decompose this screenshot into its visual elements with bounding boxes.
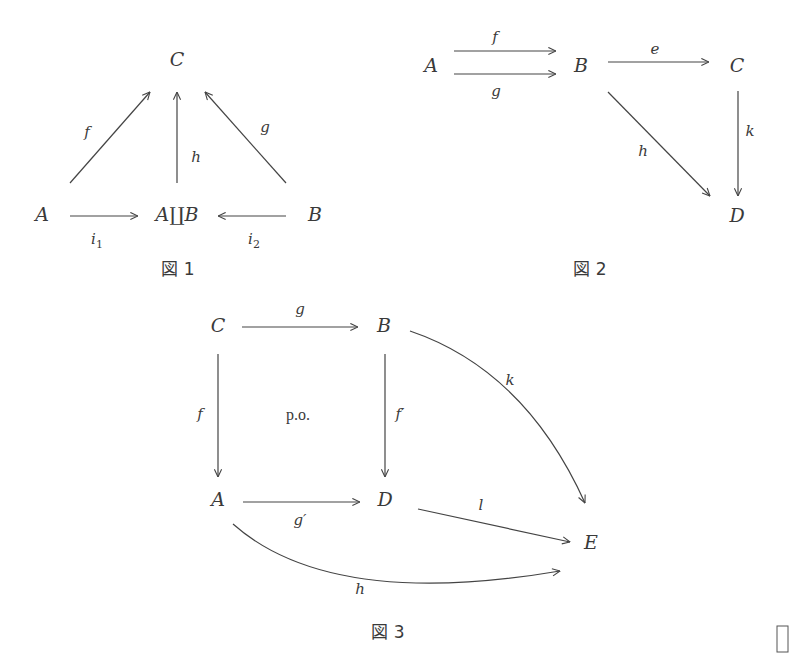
arrow-label-f: f <box>491 28 500 46</box>
arrow-label-l: l <box>479 496 484 514</box>
arrow-label-h: h <box>638 142 648 160</box>
arrow-label-g: g <box>260 118 270 136</box>
figure-caption: 図 2 <box>573 259 606 279</box>
node-AuB: A∐B <box>154 203 199 225</box>
arrow-k <box>410 331 585 503</box>
end-marker-box <box>777 626 788 652</box>
node-A: A <box>209 488 225 510</box>
arrow-label-k: k <box>505 371 514 389</box>
figure-caption: 図 1 <box>161 259 194 279</box>
arrow-label-i1: i1 <box>91 230 103 251</box>
arrow-h <box>233 524 560 583</box>
node-D: D <box>728 204 744 226</box>
arrow-l <box>418 509 570 542</box>
arrow-label-f: f <box>83 123 92 141</box>
node-B: B <box>307 203 322 225</box>
figure-fig3: gff′g′klhCBADEp.o.図 3 <box>196 300 598 642</box>
arrow-label-g: g <box>295 300 305 318</box>
figure-fig2: fgehkABCD図 2 <box>422 28 754 279</box>
diagram-canvas: fhgi1i2CAA∐BB図 1fgehkABCD図 2gff′g′klhCBA… <box>0 0 789 667</box>
node-C: C <box>170 48 185 70</box>
node-B: B <box>376 314 391 336</box>
arrow-label-k: k <box>745 122 754 140</box>
arrow-f <box>70 92 150 183</box>
arrow-h <box>608 92 710 196</box>
arrow-g <box>205 92 286 183</box>
figure-fig1: fhgi1i2CAA∐BB図 1 <box>33 48 322 279</box>
arrow-label-i2: i2 <box>248 230 260 251</box>
node-D: D <box>376 488 392 510</box>
node-A: A <box>33 203 49 225</box>
node-E: E <box>583 531 598 553</box>
pushout-label: p.o. <box>286 406 310 424</box>
arrow-label-f: f <box>196 405 205 423</box>
arrow-label-e: e <box>651 40 660 58</box>
node-C: C <box>211 314 226 336</box>
arrow-label-h: h <box>191 148 201 166</box>
arrow-label-f-prime: f′ <box>395 405 406 423</box>
arrow-label-g: g <box>491 82 501 100</box>
figures-layer: fhgi1i2CAA∐BB図 1fgehkABCD図 2gff′g′klhCBA… <box>33 28 788 652</box>
node-B: B <box>573 54 588 76</box>
node-C: C <box>730 54 745 76</box>
figure-caption: 図 3 <box>371 622 404 642</box>
arrow-label-h: h <box>355 580 365 598</box>
node-A: A <box>422 54 438 76</box>
arrow-label-g-prime: g′ <box>293 511 307 529</box>
